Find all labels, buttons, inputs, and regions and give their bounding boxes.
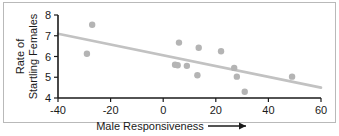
data-point	[84, 51, 90, 57]
data-point	[184, 63, 190, 69]
y-tick-label: 6	[45, 51, 51, 63]
data-point	[89, 22, 95, 28]
data-point	[289, 73, 295, 79]
y-tick-label: 8	[45, 9, 51, 21]
x-tick-label: -20	[103, 104, 119, 116]
x-axis-title: Male Responsiveness	[96, 120, 204, 132]
data-point	[242, 89, 248, 95]
x-axis-arrow-icon	[208, 123, 246, 130]
data-point	[174, 62, 180, 68]
x-tick-label: 60	[315, 104, 327, 116]
chart-canvas: 45678-40-200204060Rate ofStartling Femal…	[0, 0, 339, 136]
data-point	[234, 73, 240, 79]
y-axis-title-line2: Startling Females	[27, 13, 39, 99]
y-axis-title-line1: Rate of	[14, 38, 26, 74]
y-tick-label: 4	[45, 92, 51, 104]
data-point	[196, 45, 202, 51]
x-tick-label: 40	[262, 104, 274, 116]
x-tick-label: -40	[50, 104, 66, 116]
data-point	[231, 65, 237, 71]
trend-line	[58, 34, 321, 88]
data-point	[218, 48, 224, 54]
y-tick-label: 5	[45, 71, 51, 83]
data-point	[194, 72, 200, 78]
x-tick-label: 0	[160, 104, 166, 116]
x-tick-label: 20	[210, 104, 222, 116]
y-tick-label: 7	[45, 30, 51, 42]
scatter-plot-figure: 45678-40-200204060Rate ofStartling Femal…	[0, 0, 339, 136]
data-point	[176, 39, 182, 45]
